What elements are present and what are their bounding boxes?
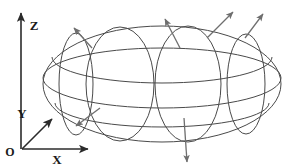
x-axis-label: X bbox=[52, 152, 62, 167]
normal-arrow-top-center bbox=[165, 19, 180, 48]
meridian-ring-4 bbox=[227, 34, 265, 134]
figure-container: Z Y X O bbox=[0, 0, 296, 168]
latitude-ring-upper bbox=[52, 57, 272, 83]
meridian-ring-1 bbox=[59, 33, 93, 135]
normal-arrow-top-right-a bbox=[207, 12, 233, 38]
y-axis-label: Y bbox=[17, 106, 27, 121]
ellipsoid-diagram: Z Y X O bbox=[0, 0, 296, 168]
normal-arrow-lower-left bbox=[76, 108, 100, 126]
origin-label: O bbox=[5, 145, 14, 159]
meridian-ring-2 bbox=[86, 27, 154, 141]
meridian-ring-3 bbox=[155, 26, 221, 142]
normal-arrow-top-right-b bbox=[245, 14, 263, 38]
y-axis-line bbox=[22, 119, 52, 149]
normal-arrow-bottom bbox=[184, 118, 187, 162]
z-axis-label: Z bbox=[30, 18, 39, 33]
equator-ring bbox=[43, 48, 281, 108]
